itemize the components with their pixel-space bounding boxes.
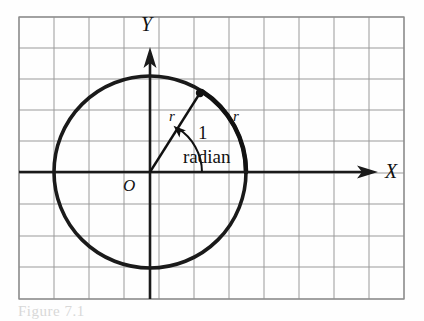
figure-container: Y X O r r 1 radian Figure 7.1: [0, 0, 424, 321]
radius-label-left: r: [169, 108, 175, 125]
x-axis-label: X: [385, 160, 397, 183]
figure-caption: Figure 7.1: [18, 303, 218, 320]
angle-value-label: 1: [198, 122, 208, 144]
point-on-circle: [196, 89, 204, 97]
radius-label-arc: r: [233, 108, 239, 125]
angle-unit-label: radian: [183, 146, 230, 168]
y-axis-label: Y: [141, 13, 152, 36]
origin-label: O: [123, 176, 135, 196]
